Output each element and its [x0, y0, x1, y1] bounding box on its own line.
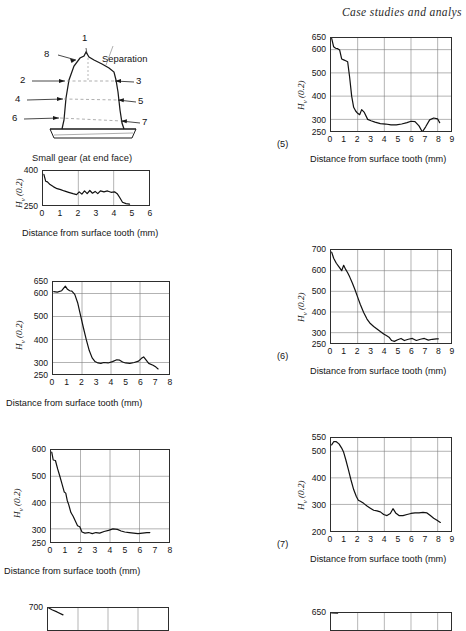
tooth-point-1: 1 [82, 32, 87, 43]
tooth-point-4: 4 [15, 93, 20, 104]
plot-area [330, 612, 452, 631]
y-tick-label: 500 [304, 446, 326, 456]
x-tick-label: 1 [341, 134, 346, 144]
x-tick-label: 5 [395, 534, 400, 544]
x-tick-label: 3 [94, 208, 99, 218]
x-axis-label: Distance from surface tooth (mm) [22, 228, 158, 238]
x-axis-label: Distance from surface tooth (mm) [310, 554, 446, 564]
x-tick-label: 6 [138, 377, 143, 387]
tooth-point-3: 3 [136, 75, 141, 86]
tooth-point-7: 7 [142, 116, 147, 127]
x-tick-label: 8 [436, 346, 441, 356]
gear-tooth-diagram: 1 8 2 3 4 5 6 7 Separation Small gear (a… [10, 24, 225, 144]
y-tick-label: 250 [304, 127, 326, 137]
x-tick-label: 7 [422, 134, 427, 144]
x-axis-label: Distance from surface tooth (mm) [310, 154, 446, 164]
y-axis-label: Hv (0.2) [14, 178, 27, 208]
tooth-point-2: 2 [20, 74, 25, 85]
tooth-point-6: 6 [12, 112, 17, 123]
y-tick-label: 600 [304, 44, 326, 54]
x-tick-label: 8 [168, 377, 173, 387]
x-tick-label: 7 [153, 545, 158, 555]
x-tick-label: 9 [450, 534, 455, 544]
y-axis-label-text: Hv (0.2) [14, 320, 24, 350]
x-tick-label: 7 [422, 346, 427, 356]
x-tick-label: 7 [153, 377, 158, 387]
x-tick-label: 0 [48, 545, 53, 555]
x-tick-label: 2 [79, 377, 84, 387]
x-tick-label: 3 [368, 534, 373, 544]
x-tick-label: 2 [355, 534, 360, 544]
y-tick-label: 300 [304, 500, 326, 510]
plot-area [47, 607, 169, 631]
y-tick-label: 400 [26, 335, 48, 345]
y-tick-label: 600 [26, 288, 48, 298]
y-tick-label: 300 [304, 328, 326, 338]
x-tick-label: 0 [50, 377, 55, 387]
plot-area [50, 449, 170, 543]
x-tick-label: 1 [63, 545, 68, 555]
x-tick-label: 6 [409, 134, 414, 144]
x-axis-label: Distance from surface tooth (mm) [310, 366, 446, 376]
y-tick-label: 300 [304, 115, 326, 125]
x-tick-label: 5 [123, 545, 128, 555]
y-axis-label: Hv (0.2) [296, 292, 309, 322]
x-tick-label: 3 [93, 545, 98, 555]
x-tick-label: 1 [58, 208, 63, 218]
y-axis-label-text: Hv (0.2) [14, 178, 24, 208]
gear-tooth-svg [10, 24, 225, 144]
x-tick-label: 4 [382, 346, 387, 356]
y-tick-label: 400 [304, 473, 326, 483]
y-tick-label: 400 [24, 498, 46, 508]
x-tick-label: 1 [341, 346, 346, 356]
x-tick-label: 0 [328, 534, 333, 544]
y-axis-label-text: Hv (0.2) [296, 480, 306, 510]
chart-number-label: (7) [277, 539, 288, 549]
x-axis-label: Distance from surface tooth (mm) [4, 566, 140, 576]
x-tick-label: 1 [64, 377, 69, 387]
y-tick-label: 650 [304, 32, 326, 42]
x-tick-label: 6 [148, 208, 153, 218]
x-tick-label: 0 [328, 346, 333, 356]
x-tick-label: 9 [450, 346, 455, 356]
plot-area [330, 249, 452, 344]
x-tick-label: 4 [112, 208, 117, 218]
tooth-point-5: 5 [138, 95, 143, 106]
chart-number-label: (5) [277, 139, 288, 149]
y-tick-label: 400 [16, 165, 38, 175]
y-axis-label: Hv (0.2) [14, 320, 27, 350]
x-tick-label: 0 [40, 208, 45, 218]
y-tick-label: 400 [304, 91, 326, 101]
y-axis-label: Hv (0.2) [12, 488, 25, 518]
x-tick-label: 5 [395, 134, 400, 144]
x-tick-label: 2 [355, 346, 360, 356]
x-axis-label: Distance from surface tooth (mm) [6, 398, 142, 408]
y-tick-label: 300 [26, 358, 48, 368]
x-tick-label: 2 [76, 208, 81, 218]
x-tick-label: 4 [108, 545, 113, 555]
y-axis-label: Hv (0.2) [296, 480, 309, 510]
figure-caption: Small gear (at end face) [32, 152, 132, 163]
tooth-point-8: 8 [44, 48, 49, 59]
y-tick-label: 250 [304, 339, 326, 349]
x-tick-label: 7 [422, 534, 427, 544]
x-tick-label: 5 [395, 346, 400, 356]
y-tick-label: 500 [24, 471, 46, 481]
y-tick-label: 650 [304, 607, 326, 617]
x-tick-label: 6 [409, 534, 414, 544]
y-tick-label: 400 [304, 307, 326, 317]
x-tick-label: 3 [94, 377, 99, 387]
x-tick-label: 5 [130, 208, 135, 218]
y-tick-label: 250 [24, 538, 46, 548]
x-tick-label: 0 [328, 134, 333, 144]
x-tick-label: 4 [382, 534, 387, 544]
y-tick-label: 650 [26, 276, 48, 286]
y-tick-label: 700 [304, 244, 326, 254]
x-tick-label: 4 [382, 134, 387, 144]
y-tick-label: 500 [26, 311, 48, 321]
plot-area [330, 437, 452, 532]
x-tick-label: 5 [123, 377, 128, 387]
running-header: Case studies and analys [342, 6, 462, 18]
plot-area [330, 37, 452, 132]
chart-number-label: (6) [277, 351, 288, 361]
